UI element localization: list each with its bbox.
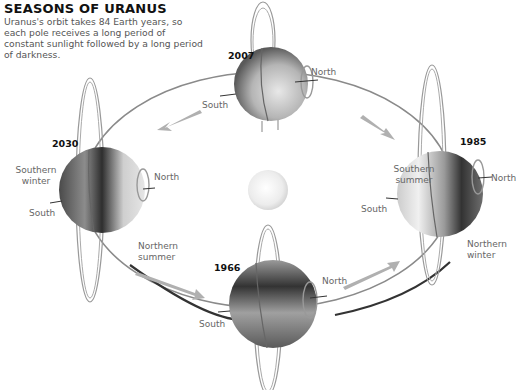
year-1985: 1985 [460,136,486,147]
label-2030-southern-winter: Southern winter [14,165,58,186]
sun-icon [248,170,288,210]
label-2030-north: North [154,172,179,183]
year-2030: 2030 [52,138,78,149]
uranus-2007 [220,2,318,132]
year-2007: 2007 [228,50,254,61]
label-1985-south: South [361,204,387,215]
label-2030-northern-summer: Northern summer [138,241,182,262]
label-2007-north: North [311,67,336,78]
label-1966-north: North [322,276,347,287]
year-1966: 1966 [214,262,240,273]
uranus-2030 [50,78,155,302]
label-1985-north: North [491,173,516,184]
label-2030-south: South [29,208,55,219]
label-1966-south: South [199,319,225,330]
label-1985-southern-summer: Southern summer [392,164,436,185]
uranus-1966 [218,225,327,390]
label-1985-northern-winter: Northern winter [467,239,511,260]
label-2007-south: South [202,100,228,111]
